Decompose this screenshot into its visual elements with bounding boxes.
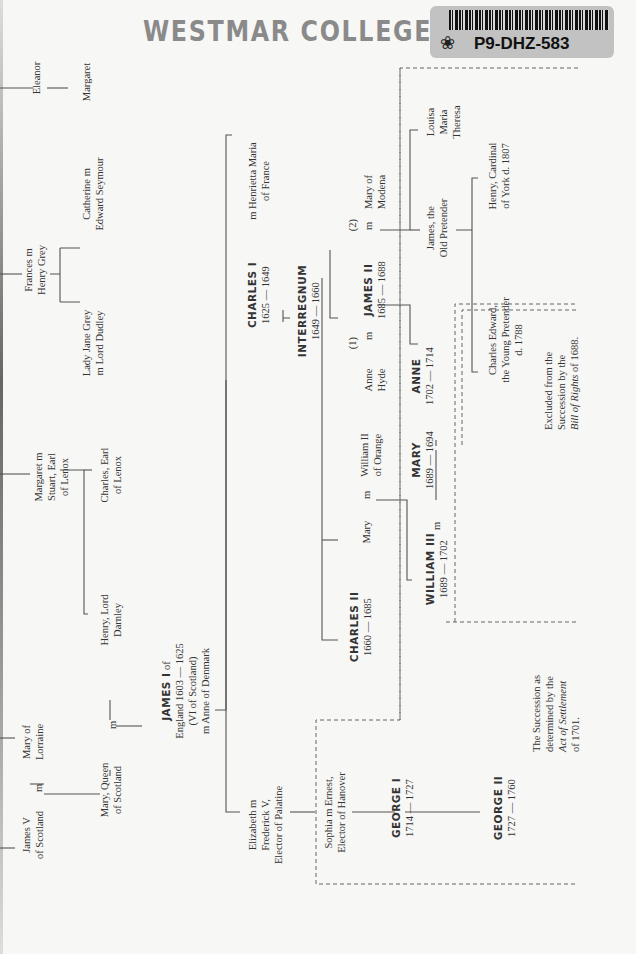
marriage-m: m xyxy=(430,516,443,536)
person-frances: Frances mHenry Grey xyxy=(22,230,48,310)
note-act-of-settlement: The Succession asdetermined by theAct of… xyxy=(530,640,582,752)
marriage-m: m xyxy=(32,778,45,798)
person-henry-cardinal-of-york: Henry, Cardinalof York d. 1807 xyxy=(486,126,512,226)
person-mary-princess-royal: Mary xyxy=(360,512,373,552)
person-anne-hyde: AnneHyde xyxy=(362,360,388,400)
monarch-anne: ANNE1702 — 1714 xyxy=(410,336,436,416)
person-louisa-maria-theresa: LouisaMariaTheresa xyxy=(424,92,463,152)
person-mary-of-modena: Mary ofModena xyxy=(362,162,388,222)
monarch-charles-i: CHARLES I1625 — 1649 xyxy=(246,250,272,340)
period-interregnum: INTERREGNUM1649 — 1660 xyxy=(296,256,322,366)
monarch-george-ii: GEORGE II1727 — 1760 xyxy=(492,768,518,848)
person-margaret-stuart: Margaret mStuart, Earlof Lenox xyxy=(32,432,71,522)
person-elizabeth: Elizabeth mFrederick V,Elector of Palati… xyxy=(246,770,285,880)
marriage-number-2: (2) xyxy=(346,210,359,240)
person-james-i: JAMES I ofEngland 1603 — 1625(VI of Scot… xyxy=(160,616,212,766)
person-charles-earl-of-lenox: Charles, Earlof Lenox xyxy=(98,430,124,520)
person-mary-of-lorraine: Mary ofLorraine xyxy=(20,712,46,772)
person-eleanor: Eleanor xyxy=(30,48,43,108)
marriage-m: m xyxy=(106,715,119,735)
person-henry-lord-darnley: Henry, LordDarnley xyxy=(98,580,124,660)
person-old-pretender: James, theOld Pretender xyxy=(424,188,450,268)
monarch-james-ii: JAMES II1685 — 1688 xyxy=(362,250,388,330)
monarch-george-i: GEORGE I1714 — 1727 xyxy=(390,768,416,848)
person-mary-queen-of-scots: Mary, Queenof Scotland xyxy=(98,750,124,830)
person-william-ii-of-orange: William IIof Orange xyxy=(358,420,384,490)
monarch-william-iii: WILLIAM III1689 — 1702 xyxy=(424,524,450,614)
scanned-page: WESTMAR COLLEGE LI ❀ P9-DHZ-583 xyxy=(0,0,636,954)
person-james-v: James Vof Scotland xyxy=(20,800,46,870)
monarch-charles-ii: CHARLES II1660 — 1685 xyxy=(348,582,374,672)
person-lady-jane-grey: Lady Jane Greym Lord Dudley xyxy=(80,298,106,388)
person-margaret: Margaret xyxy=(80,52,93,112)
person-henrietta-maria: m Henrietta Mariaof France xyxy=(246,126,272,236)
person-charles-edward: Charles Edward,the Young Pretenderd. 178… xyxy=(486,280,525,400)
person-sophia: Sophia m Ernest,Elector of Hanover xyxy=(322,755,348,870)
person-catherine: Catherine mEdward Seymour xyxy=(80,144,106,244)
marriage-number-1: (1) xyxy=(346,328,359,358)
note-excluded-bill-of-rights: Excluded from theSuccession by theBill o… xyxy=(542,300,581,430)
monarch-mary-ii: MARY1689 — 1694 xyxy=(410,420,436,500)
